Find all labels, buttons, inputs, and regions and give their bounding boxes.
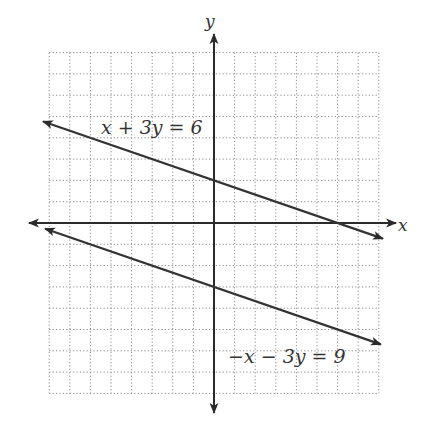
coordinate-plane: x y x + 3y = 6 −x − 3y = 9 [0,0,427,435]
y-axis-label: y [204,11,215,31]
plotted-lines [43,121,383,344]
equation-label-line2: −x − 3y = 9 [228,345,346,367]
equation-label-line1: x + 3y = 6 [101,116,203,138]
x-axis-label: x [398,215,408,235]
line-series-2 [45,229,381,345]
